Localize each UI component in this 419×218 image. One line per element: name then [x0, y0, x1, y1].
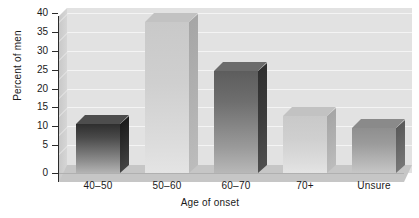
bar-front-face: [76, 124, 120, 173]
bar-top-face: [145, 13, 198, 22]
y-axis-title: Percent of men: [12, 11, 23, 121]
y-axis-tick-label: 40: [18, 7, 48, 18]
y-axis-tick-label: 5: [18, 139, 48, 150]
y-axis-tick: [52, 70, 58, 71]
y-axis-line: [58, 16, 59, 182]
y-axis-tick-label: 20: [18, 83, 48, 94]
bar: [145, 22, 189, 173]
y-axis-tick: [52, 89, 58, 90]
y-axis-tick: [52, 173, 58, 174]
x-axis-title: Age of onset: [60, 197, 360, 208]
y-axis-tick-label: 0: [18, 167, 48, 178]
bar-front-face: [352, 128, 396, 173]
bar-front-face: [214, 71, 258, 173]
bar-top-face: [214, 62, 267, 71]
y-axis-tick: [52, 126, 58, 127]
bar-side-face: [327, 108, 336, 173]
bar-side-face: [258, 63, 267, 173]
bar-chart: 0510152025303540 40–5050–6060–7070+Unsur…: [0, 0, 419, 218]
bar: [352, 128, 396, 173]
y-axis-tick: [52, 51, 58, 52]
plot-floor-front-edge: [59, 173, 404, 174]
bar: [283, 116, 327, 173]
bar-side-face: [120, 116, 129, 173]
x-axis-category-label: 70+: [265, 180, 345, 191]
gridline: [67, 51, 412, 52]
bar-top-face: [352, 119, 405, 128]
gridline: [67, 32, 412, 33]
gridline: [67, 13, 412, 14]
bar-top-face: [283, 107, 336, 116]
y-axis-tick: [52, 145, 58, 146]
bar-front-face: [145, 22, 189, 173]
bar: [76, 124, 120, 173]
y-axis-tick-label: 30: [18, 45, 48, 56]
y-axis-tick-label: 25: [18, 64, 48, 75]
bar-front-face: [283, 116, 327, 173]
y-axis-tick-label: 35: [18, 26, 48, 37]
bar-top-face: [76, 115, 129, 124]
y-axis-tick: [52, 32, 58, 33]
y-axis-tick: [52, 107, 58, 108]
y-axis-tick: [52, 13, 58, 14]
x-axis-category-label: Unsure: [334, 180, 414, 191]
y-axis-tick-label: 10: [18, 120, 48, 131]
bar-side-face: [396, 120, 405, 173]
x-axis-category-label: 50–60: [127, 180, 207, 191]
y-axis-tick-label: 15: [18, 101, 48, 112]
bar-side-face: [189, 14, 198, 173]
bar: [214, 71, 258, 173]
x-axis-category-label: 60–70: [196, 180, 276, 191]
x-axis-category-label: 40–50: [58, 180, 138, 191]
